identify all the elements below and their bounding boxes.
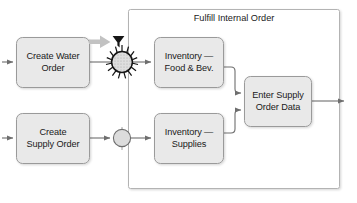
cursor-funnel-icon xyxy=(113,36,125,48)
highlight-pointer-icon xyxy=(89,36,111,49)
process-flow-diagram: Fulfill Internal Order Create Water Orde… xyxy=(0,0,357,203)
node-enter-supply-order-data[interactable] xyxy=(245,77,312,127)
diagram-canvas xyxy=(0,0,357,203)
node-create-water-order[interactable] xyxy=(17,38,90,88)
node-create-supply-order[interactable] xyxy=(17,114,90,164)
group-title: Fulfill Internal Order xyxy=(128,13,340,23)
node-inventory-supplies[interactable] xyxy=(155,114,224,164)
node-inventory-food-bev[interactable] xyxy=(155,38,224,88)
group-title-text: Fulfill Internal Order xyxy=(194,13,275,23)
